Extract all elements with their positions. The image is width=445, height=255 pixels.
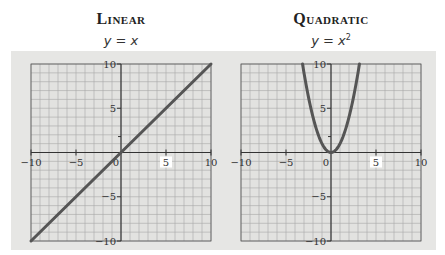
y-tick-label: 5 [110,103,116,114]
x-tick-label: 5 [373,157,379,168]
x-tick-label: −5 [69,157,84,168]
quadratic-graph: −10−50510105−5−10 [230,59,427,247]
x-tick-label: 10 [205,157,218,168]
x-tick-label: 0 [323,157,329,168]
y-tick-label: −5 [101,191,116,202]
x-tick-label: −10 [230,157,251,168]
graphs-canvas: −10−50510105−5−10−10−50510105−5−10 [0,0,445,255]
y-tick-label: −10 [305,236,326,247]
x-tick-label: −10 [20,157,41,168]
y-tick-label: 10 [103,59,116,70]
y-tick-label: 5 [320,103,326,114]
x-tick-label: 5 [163,157,169,168]
x-tick-label: 10 [415,157,428,168]
y-tick-label: −10 [95,236,116,247]
linear-graph: −10−50510105−5−10 [20,59,217,247]
y-tick-label: −5 [311,191,326,202]
x-tick-label: −5 [279,157,294,168]
y-tick-label: 10 [313,59,326,70]
